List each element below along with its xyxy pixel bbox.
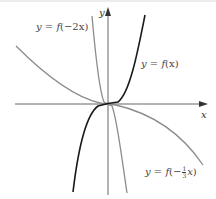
fraction-one-third: 13 [182, 166, 186, 179]
label-f-neg-third-x: y = f(−13x) [145, 166, 197, 179]
x-axis-arrow-icon [199, 101, 208, 107]
label-f: y = f(x) [141, 59, 179, 69]
y-axis-label: y [99, 8, 105, 18]
y-axis-arrow-icon [105, 7, 111, 16]
function-graph-figure: y x y = f(−2x) y = f(x) y = f(−13x) [0, 0, 216, 199]
label-f-neg2x: y = f(−2x) [36, 22, 88, 32]
x-axis-label: x [201, 110, 207, 120]
